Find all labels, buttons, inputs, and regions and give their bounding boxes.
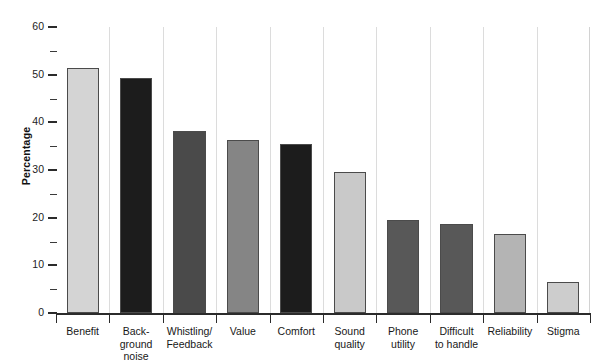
x-axis-category-label: Benefit (56, 325, 109, 338)
y-axis-tick (48, 26, 57, 28)
y-axis-tick-label: 30 (14, 164, 44, 175)
y-axis-tick-label: 60 (14, 21, 44, 32)
x-axis-tick (376, 315, 377, 323)
plot-area (56, 27, 590, 313)
x-axis-tick (216, 315, 217, 323)
bar-reliability (494, 234, 526, 313)
y-axis-tick-label: 0 (14, 307, 44, 318)
category-gridline (323, 27, 324, 313)
category-gridline (163, 27, 164, 313)
x-axis-category-label: Back- ground noise (109, 325, 162, 363)
bar-background-noise (120, 78, 152, 313)
y-axis-tick (48, 312, 57, 314)
x-axis-tick (323, 315, 324, 323)
bar-whistling-feedback (173, 131, 205, 313)
bar-benefit (67, 68, 99, 313)
category-gridline (216, 27, 217, 313)
x-axis-tick (430, 315, 431, 323)
category-gridline (270, 27, 271, 313)
x-axis-tick (537, 315, 538, 323)
y-axis-tick-label: 50 (14, 69, 44, 80)
y-axis-tick-label: 20 (14, 212, 44, 223)
y-axis-minor-tick (50, 289, 57, 290)
bar-difficult-to-handle (440, 224, 472, 313)
x-axis-category-label: Stigma (537, 325, 590, 338)
category-gridline (537, 27, 538, 313)
x-axis-category-label: Whistling/ Feedback (163, 325, 216, 350)
x-axis-category-label: Value (216, 325, 269, 338)
y-axis-tick (48, 264, 57, 266)
x-axis-category-label: Sound quality (323, 325, 376, 350)
x-axis-tick (109, 315, 110, 323)
y-axis-minor-tick (50, 51, 57, 52)
bar-stigma (547, 282, 579, 313)
y-axis-tick-label: 10 (14, 259, 44, 270)
x-axis-tick (56, 315, 57, 323)
category-gridline (430, 27, 431, 313)
x-axis-category-label: Difficult to handle (430, 325, 483, 350)
category-gridline (376, 27, 377, 313)
bar-sound-quality (334, 172, 366, 313)
y-axis-minor-tick (50, 99, 57, 100)
x-axis-category-label: Reliability (483, 325, 536, 338)
y-axis-tick-label: 40 (14, 116, 44, 127)
x-axis-tick (483, 315, 484, 323)
bar-chart: Percentage 0102030405060BenefitBack- gro… (0, 0, 614, 364)
bar-phone-utility (387, 220, 419, 313)
x-axis-category-label: Comfort (270, 325, 323, 338)
x-axis-tick (163, 315, 164, 323)
y-axis-tick (48, 74, 57, 76)
y-axis-minor-tick (50, 242, 57, 243)
y-axis-tick (48, 121, 57, 123)
category-gridline (483, 27, 484, 313)
category-gridline (109, 27, 110, 313)
x-axis-tick (270, 315, 271, 323)
y-axis-minor-tick (50, 194, 57, 195)
plot-right-edge (589, 27, 590, 313)
x-axis-tick (590, 315, 591, 323)
bar-comfort (280, 144, 312, 313)
bar-value (227, 140, 259, 313)
y-axis-tick (48, 169, 57, 171)
x-axis-category-label: Phone utility (376, 325, 429, 350)
y-axis-minor-tick (50, 146, 57, 147)
y-axis-tick (48, 217, 57, 219)
